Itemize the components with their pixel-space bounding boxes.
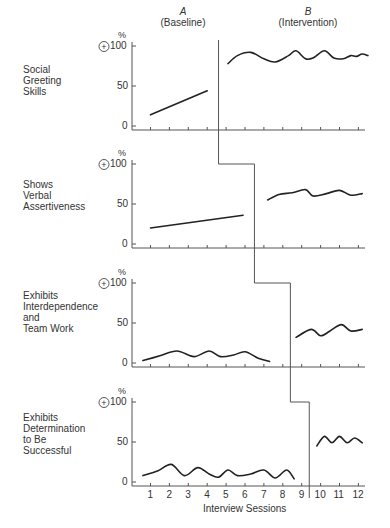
x-tick-label: 1 bbox=[148, 489, 154, 500]
panel-4: + bbox=[99, 398, 365, 487]
panel-2: + bbox=[99, 160, 365, 249]
x-tick-label: 5 bbox=[223, 489, 229, 500]
panel-1: + bbox=[99, 42, 368, 131]
y-tick-label: 0 bbox=[122, 238, 128, 249]
x-axis-title: Interview Sessions bbox=[203, 503, 286, 514]
phase-header-baseline: A(Baseline) bbox=[148, 6, 218, 28]
plus-icon: + bbox=[101, 279, 106, 289]
x-tick-label: 7 bbox=[261, 489, 267, 500]
baseline-series bbox=[143, 351, 270, 361]
y-tick-label: 50 bbox=[117, 198, 128, 209]
panel-3: + bbox=[99, 279, 365, 368]
behavior-label: Exhibits Interdependence and Team Work bbox=[23, 290, 98, 334]
y-tick-label: 50 bbox=[117, 317, 128, 328]
baseline-series bbox=[143, 464, 294, 478]
plus-icon: + bbox=[101, 398, 106, 408]
phase-letter-a: A bbox=[148, 6, 218, 17]
behavior-label: Exhibits Determination to Be Successful bbox=[23, 412, 85, 456]
x-tick-label: 8 bbox=[280, 489, 286, 500]
phase-header-intervention: B(Intervention) bbox=[268, 6, 348, 28]
y-tick-label: 0 bbox=[122, 357, 128, 368]
x-tick-label: 10 bbox=[315, 489, 326, 500]
y-tick-label: 50 bbox=[117, 436, 128, 447]
x-tick-label: 3 bbox=[185, 489, 191, 500]
x-tick-label: 6 bbox=[242, 489, 248, 500]
plus-icon: + bbox=[101, 42, 106, 52]
y-unit-label: % bbox=[118, 30, 126, 41]
y-unit-label: % bbox=[118, 386, 126, 397]
x-tick-label: 9 bbox=[299, 489, 305, 500]
phase-change-line bbox=[219, 40, 310, 498]
intervention-series bbox=[317, 436, 362, 446]
y-unit-label: % bbox=[118, 148, 126, 159]
phase-label-intervention: (Intervention) bbox=[279, 17, 338, 28]
phase-letter-b: B bbox=[268, 6, 348, 17]
x-tick-label: 2 bbox=[166, 489, 172, 500]
y-tick-label: 100 bbox=[110, 40, 127, 51]
behavior-label: Social Greeting Skills bbox=[23, 64, 61, 97]
y-tick-label: 0 bbox=[122, 120, 128, 131]
intervention-series bbox=[296, 325, 362, 338]
y-tick-label: 100 bbox=[110, 396, 127, 407]
x-tick-label: 11 bbox=[334, 489, 344, 500]
y-tick-label: 100 bbox=[110, 158, 127, 169]
baseline-series bbox=[151, 215, 244, 228]
x-tick-label: 12 bbox=[352, 489, 363, 500]
plus-icon: + bbox=[101, 160, 106, 170]
y-unit-label: % bbox=[118, 267, 126, 278]
baseline-series bbox=[151, 91, 208, 115]
behavior-label: Shows Verbal Assertiveness bbox=[23, 179, 85, 212]
phase-label-baseline: (Baseline) bbox=[160, 17, 205, 28]
intervention-series bbox=[228, 51, 368, 64]
intervention-series bbox=[268, 190, 363, 200]
x-tick-label: 4 bbox=[204, 489, 210, 500]
y-tick-label: 50 bbox=[117, 80, 128, 91]
y-tick-label: 0 bbox=[122, 476, 128, 487]
y-tick-label: 100 bbox=[110, 277, 127, 288]
